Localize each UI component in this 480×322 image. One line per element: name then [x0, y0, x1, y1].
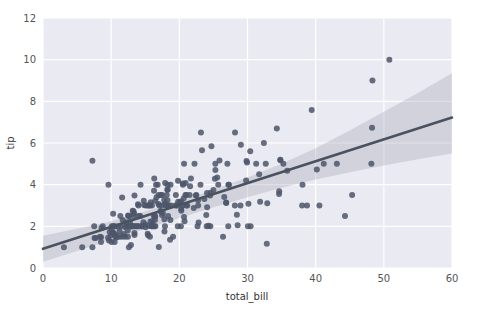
x-axis-title: total_bill	[226, 291, 269, 303]
scatter-point	[232, 130, 238, 136]
scatter-point	[146, 203, 152, 209]
scatter-point	[167, 217, 173, 223]
scatter-point	[257, 199, 263, 205]
scatter-point	[135, 203, 141, 209]
scatter-point	[180, 182, 186, 188]
scatter-point	[261, 140, 267, 146]
scatter-point	[204, 204, 210, 210]
scatter-point	[264, 241, 270, 247]
y-tick-label: 4	[30, 179, 36, 190]
scatter-point	[386, 57, 392, 63]
y-tick-label: 2	[30, 221, 36, 232]
scatter-point	[119, 234, 125, 240]
scatter-point	[98, 239, 104, 245]
scatter-point	[274, 125, 280, 131]
scatter-point	[131, 232, 137, 238]
scatter-point	[173, 192, 179, 198]
scatter-point	[264, 200, 270, 206]
x-tick-label: 20	[173, 273, 186, 284]
scatter-point	[156, 244, 162, 250]
scatter-point	[126, 244, 132, 250]
scatter-point	[321, 161, 327, 167]
scatter-point	[164, 187, 170, 193]
scatter-point	[245, 201, 251, 207]
scatter-point	[182, 218, 188, 224]
y-tick-label: 6	[30, 138, 36, 149]
y-tick-label: 12	[23, 13, 36, 24]
scatter-point	[300, 182, 306, 188]
scatter-plot-regression: 0102030405060 024681012 total_bill tip	[0, 0, 480, 322]
scatter-point	[263, 161, 269, 167]
scatter-point	[235, 222, 241, 228]
scatter-point	[181, 161, 187, 167]
scatter-point	[175, 223, 181, 229]
scatter-point	[243, 158, 249, 164]
scatter-point	[212, 167, 218, 173]
scatter-point	[109, 239, 115, 245]
y-tick-label: 10	[23, 54, 36, 65]
figure-container: 0102030405060 024681012 total_bill tip	[0, 0, 480, 322]
scatter-point	[304, 203, 310, 209]
scatter-point	[232, 203, 238, 209]
scatter-point	[139, 223, 145, 229]
scatter-point	[204, 223, 210, 229]
scatter-point	[197, 182, 203, 188]
scatter-point	[212, 176, 218, 182]
scatter-point	[151, 188, 157, 194]
scatter-point	[234, 212, 240, 218]
scatter-point	[247, 148, 253, 154]
scatter-point	[195, 223, 201, 229]
scatter-point	[193, 193, 199, 199]
scatter-point	[91, 223, 97, 229]
scatter-point	[309, 107, 315, 113]
scatter-point	[93, 235, 99, 241]
scatter-point	[223, 200, 229, 206]
scatter-point	[89, 244, 95, 250]
scatter-point	[314, 166, 320, 172]
y-tick-label: 0	[30, 263, 36, 274]
scatter-point	[237, 203, 243, 209]
scatter-point	[89, 158, 95, 164]
scatter-point	[131, 208, 137, 214]
scatter-point	[245, 223, 251, 229]
scatter-point	[151, 175, 157, 181]
scatter-point	[105, 182, 111, 188]
scatter-point	[107, 229, 113, 235]
scatter-point	[199, 147, 205, 153]
scatter-point	[238, 142, 244, 148]
scatter-point	[224, 161, 230, 167]
scatter-point	[119, 194, 125, 200]
scatter-point	[221, 194, 227, 200]
scatter-point	[159, 203, 165, 209]
scatter-point	[162, 223, 168, 229]
scatter-point	[168, 182, 174, 188]
scatter-point	[79, 244, 85, 250]
scatter-point	[253, 161, 259, 167]
scatter-point	[203, 212, 209, 218]
scatter-point	[110, 211, 116, 217]
scatter-point	[131, 193, 137, 199]
scatter-point	[342, 213, 348, 219]
scatter-point	[369, 78, 375, 84]
scatter-point	[175, 178, 181, 184]
scatter-point	[220, 234, 226, 240]
scatter-point	[164, 192, 170, 198]
scatter-point	[256, 171, 262, 177]
scatter-point	[161, 229, 167, 235]
scatter-point	[188, 175, 194, 181]
scatter-point	[349, 192, 355, 198]
scatter-point	[138, 182, 144, 188]
scatter-point	[182, 192, 188, 198]
scatter-point	[277, 157, 283, 163]
scatter-point	[191, 205, 197, 211]
y-tick-label: 8	[30, 96, 36, 107]
scatter-point	[316, 203, 322, 209]
scatter-point	[369, 125, 375, 131]
x-tick-label: 10	[105, 273, 118, 284]
scatter-point	[167, 237, 173, 243]
scatter-point	[153, 182, 159, 188]
scatter-point	[147, 234, 153, 240]
scatter-point	[276, 188, 282, 194]
x-tick-label: 0	[40, 273, 46, 284]
scatter-point	[164, 197, 170, 203]
